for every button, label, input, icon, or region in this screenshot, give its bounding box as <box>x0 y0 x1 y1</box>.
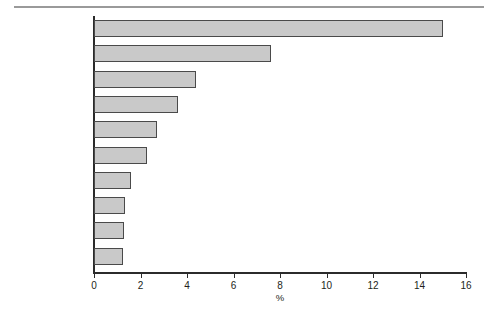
bar <box>94 197 125 214</box>
x-tick-label: 2 <box>138 280 144 291</box>
x-tick-mark <box>466 273 467 278</box>
x-tick-label: 4 <box>184 280 190 291</box>
x-tick-mark <box>141 273 142 278</box>
bar-chart-figure: VancouverTorontoCalgaryEdmontonVictoriaO… <box>0 0 495 315</box>
bar <box>94 71 196 88</box>
bar <box>94 20 443 37</box>
x-tick-label: 6 <box>231 280 237 291</box>
bar <box>94 172 131 189</box>
x-tick-mark <box>187 273 188 278</box>
plot-area: VancouverTorontoCalgaryEdmontonVictoriaO… <box>0 0 495 315</box>
x-axis-title: % <box>276 292 284 303</box>
x-tick-label: 16 <box>460 280 471 291</box>
x-tick-mark <box>373 273 374 278</box>
x-tick-label: 14 <box>414 280 425 291</box>
bar <box>94 121 157 138</box>
x-tick-mark <box>94 273 95 278</box>
x-tick-label: 0 <box>91 280 97 291</box>
x-tick-mark <box>327 273 328 278</box>
bar <box>94 248 123 265</box>
bar <box>94 45 271 62</box>
x-tick-label: 10 <box>321 280 332 291</box>
bar <box>94 147 147 164</box>
x-tick-mark <box>234 273 235 278</box>
x-tick-label: 12 <box>367 280 378 291</box>
x-tick-label: 8 <box>277 280 283 291</box>
bar <box>94 96 178 113</box>
x-tick-mark <box>420 273 421 278</box>
bar <box>94 222 124 239</box>
x-tick-mark <box>280 273 281 278</box>
